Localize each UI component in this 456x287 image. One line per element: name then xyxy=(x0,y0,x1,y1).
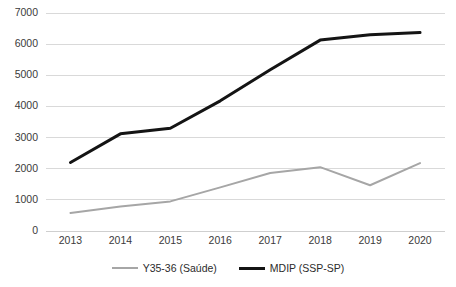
legend-item-label: MDIP (SSP-SP) xyxy=(270,262,344,274)
x-tick-label: 2017 xyxy=(248,234,292,246)
y-tick-label: 0 xyxy=(2,224,38,236)
legend-line-swatch-icon xyxy=(112,267,138,269)
legend-line-swatch-icon xyxy=(239,267,265,270)
x-tick-label: 2018 xyxy=(298,234,342,246)
y-tick-label: 4000 xyxy=(2,99,38,111)
y-tick-label: 3000 xyxy=(2,131,38,143)
series-line-1 xyxy=(70,33,420,163)
x-tick-label: 2019 xyxy=(348,234,392,246)
legend-item-label: Y35-36 (Saúde) xyxy=(143,262,217,274)
x-tick-label: 2014 xyxy=(98,234,142,246)
x-tick-label: 2020 xyxy=(398,234,442,246)
x-tick-label: 2016 xyxy=(198,234,242,246)
y-tick-label: 5000 xyxy=(2,68,38,80)
legend-item-1[interactable]: MDIP (SSP-SP) xyxy=(239,262,344,274)
series-line-0 xyxy=(70,163,420,213)
y-tick-label: 1000 xyxy=(2,193,38,205)
x-tick-label: 2015 xyxy=(148,234,192,246)
data-series-lines xyxy=(70,33,420,213)
gridlines xyxy=(46,13,446,231)
x-tick-label: 2013 xyxy=(48,234,92,246)
y-tick-label: 2000 xyxy=(2,162,38,174)
y-tick-label: 6000 xyxy=(2,37,38,49)
legend-item-0[interactable]: Y35-36 (Saúde) xyxy=(112,262,217,274)
line-chart: 01000200030004000500060007000 2013201420… xyxy=(0,0,456,287)
y-tick-label: 7000 xyxy=(2,6,38,18)
chart-legend: Y35-36 (Saúde)MDIP (SSP-SP) xyxy=(0,262,456,274)
